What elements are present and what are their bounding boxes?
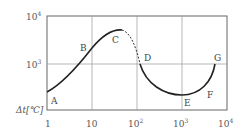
y-tick-1e4: 104 xyxy=(26,10,41,22)
point-label-a: A xyxy=(50,96,58,106)
y-tick-1e3: 103 xyxy=(26,58,41,70)
point-label-c: C xyxy=(112,35,119,45)
point-label-d: D xyxy=(144,53,151,63)
x-tick-1: 1 xyxy=(45,119,51,129)
curve-defg xyxy=(140,64,215,95)
x-tick-1e3: 103 xyxy=(173,117,188,129)
x-tick-1e4: 104 xyxy=(218,117,233,129)
point-label-f: F xyxy=(207,90,213,100)
point-label-e: E xyxy=(184,98,191,108)
point-label-b: B xyxy=(80,43,87,53)
y-axis-label: Δt[℃] xyxy=(15,105,44,115)
gridlines xyxy=(47,16,227,110)
x-tick-1e2: 102 xyxy=(128,117,143,129)
x-tick-10: 10 xyxy=(86,119,98,129)
curve-abc xyxy=(47,30,122,92)
point-label-g: G xyxy=(214,53,221,63)
boiling-curve-chart: A B C D E F G 104 103 Δt[℃] 1 10 102 103… xyxy=(0,0,246,135)
